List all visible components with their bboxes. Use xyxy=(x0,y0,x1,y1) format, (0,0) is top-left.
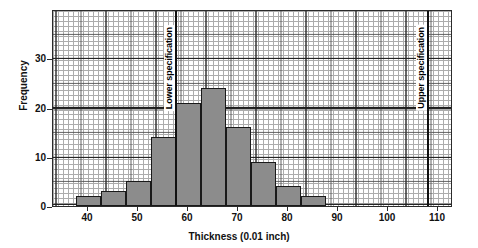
y-tick-mark xyxy=(47,59,52,60)
x-tick-label: 110 xyxy=(422,212,452,223)
upper-specification-line xyxy=(427,11,429,207)
x-tick-label: 40 xyxy=(72,212,102,223)
histogram-bar xyxy=(301,196,326,206)
x-tick-mark xyxy=(387,207,388,211)
histogram-bar xyxy=(151,137,176,206)
histogram-bar xyxy=(251,162,276,206)
y-tick-mark xyxy=(47,158,52,159)
histogram-bar xyxy=(101,191,126,206)
y-tick-label: 10 xyxy=(20,152,46,163)
x-tick-label: 50 xyxy=(122,212,152,223)
x-tick-mark xyxy=(337,207,338,211)
histogram-bar xyxy=(201,88,226,206)
histogram-bar xyxy=(276,186,301,206)
histogram-bar xyxy=(76,196,101,206)
x-axis-title: Thickness (0.01 inch) xyxy=(0,231,478,242)
x-tick-mark xyxy=(87,207,88,211)
histogram-bar xyxy=(226,127,251,206)
x-tick-mark xyxy=(237,207,238,211)
upper-specification-label: Upper specification xyxy=(416,25,427,111)
y-axis-title: Frequency xyxy=(18,41,29,131)
histogram-bar xyxy=(126,181,151,206)
x-tick-label: 100 xyxy=(372,212,402,223)
x-tick-label: 70 xyxy=(222,212,252,223)
y-tick-mark xyxy=(47,109,52,110)
x-tick-mark xyxy=(187,207,188,211)
x-tick-mark xyxy=(437,207,438,211)
plot-area: Lower specificationUpper specification xyxy=(52,10,452,207)
x-tick-label: 90 xyxy=(322,212,352,223)
histogram-bar xyxy=(176,103,201,206)
x-tick-mark xyxy=(137,207,138,211)
y-tick-mark xyxy=(47,207,52,208)
lower-specification-label: Lower specification xyxy=(164,25,175,111)
x-tick-mark xyxy=(287,207,288,211)
histogram-figure: Lower specificationUpper specification 0… xyxy=(0,0,478,248)
x-tick-label: 80 xyxy=(272,212,302,223)
x-tick-label: 60 xyxy=(172,212,202,223)
y-tick-label: 0 xyxy=(20,201,46,212)
